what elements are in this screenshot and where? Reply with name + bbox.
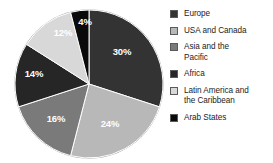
pie-chart-figure: 30%24%16%14%12%4% EuropeUSA and CanadaAs… [0,0,273,163]
legend-swatch-icon [170,27,178,35]
legend-item-label: Europe [184,9,210,20]
pie-slice-value-label: 16% [47,113,66,124]
legend-item[interactable]: Europe [170,9,273,20]
legend-swatch-icon [170,70,178,78]
legend-item-label: Arab States [184,113,226,124]
pie-slice-value-label: 24% [101,118,120,129]
legend-item-label: Latin America and the Caribbean [184,86,249,107]
legend-item[interactable]: Asia and the Pacific [170,42,273,63]
pie-chart-svg: 30%24%16%14%12%4% [0,0,168,163]
legend-item-label: Asia and the Pacific [184,42,229,63]
legend-item[interactable]: USA and Canada [170,26,273,37]
legend-item-label: USA and Canada [184,26,247,37]
pie-slice-value-label: 14% [25,68,44,79]
legend-item[interactable]: Arab States [170,113,273,124]
legend-swatch-icon [170,10,178,18]
legend-swatch-icon [170,114,178,122]
pie-slice-value-label: 30% [113,46,132,57]
legend-item-label: Africa [184,69,205,80]
pie-chart-plot-area: 30%24%16%14%12%4% [0,0,168,163]
legend-swatch-icon [170,87,178,95]
legend-swatch-icon [170,43,178,51]
legend-item[interactable]: Africa [170,69,273,80]
legend-item[interactable]: Latin America and the Caribbean [170,86,273,107]
pie-slice-value-label: 4% [78,16,92,27]
pie-slice-value-label: 12% [54,27,73,38]
chart-legend: EuropeUSA and CanadaAsia and the Pacific… [170,9,273,159]
